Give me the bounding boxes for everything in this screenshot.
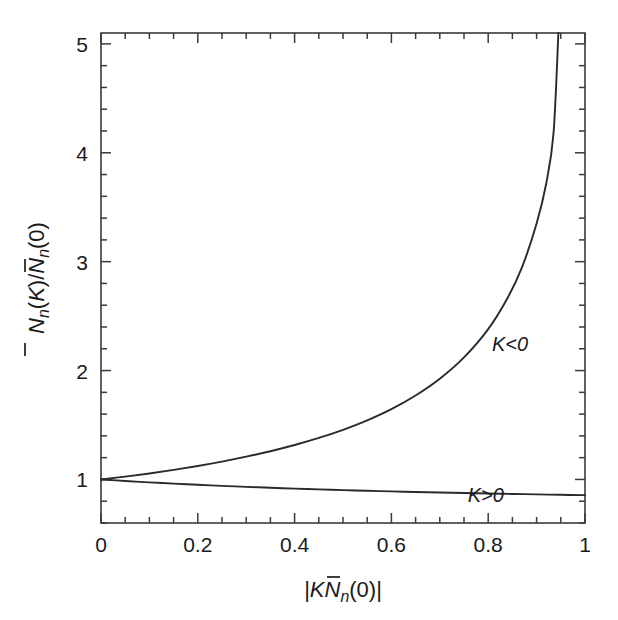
x-tick-label: 1 [579,533,591,556]
curve-k-positive [101,479,585,495]
y-tick-label: 2 [76,360,88,383]
x-axis-title: |KNn(0)| [304,577,382,605]
y-title-n1: N [24,318,49,334]
x-tick-label: 0 [95,533,107,556]
x-title-arg: (0) [349,577,376,602]
x-tick-label: 0.2 [183,533,212,556]
y-axis-tick-labels: 12345 [76,33,88,492]
x-tick-label: 0.8 [474,533,503,556]
series-label-k-positive: K>0 [468,484,504,506]
x-axis-tick-labels: 00.20.40.60.81 [95,533,591,556]
x-title-k: K [310,577,326,602]
curve-k-negative [101,33,558,479]
x-axis-ticks [101,33,585,523]
x-title-subscript: n [340,588,349,605]
svg-text:Nn(K)/Nn(0): Nn(K)/Nn(0) [24,222,52,334]
series-label-k-negative: K<0 [492,333,528,355]
y-title-arg1-close: ) [24,280,49,287]
y-axis-ticks [101,44,585,523]
x-tick-label: 0.4 [280,533,310,556]
y-tick-label: 5 [76,33,88,56]
x-tick-label: 0.6 [377,533,406,556]
y-title-arg2: (0) [24,222,49,249]
figure-container: 00.20.40.60.81 12345 K<0 K>0 |KNn(0)| Nn… [0,0,618,620]
y-title-n2: N [24,258,49,274]
y-title-sub1: n [35,309,52,318]
svg-text:|KNn(0)|: |KNn(0)| [304,577,382,605]
x-title-close-bar: | [376,577,382,602]
y-tick-label: 1 [76,468,88,491]
y-tick-label: 4 [76,142,88,165]
y-title-sub2: n [35,249,52,258]
plot-frame [101,33,585,523]
y-axis-title: Nn(K)/Nn(0) [24,222,52,356]
y-title-k: K [24,286,49,302]
line-chart: 00.20.40.60.81 12345 K<0 K>0 |KNn(0)| Nn… [0,0,618,620]
y-tick-label: 3 [76,251,88,274]
x-title-n: N [325,577,341,602]
